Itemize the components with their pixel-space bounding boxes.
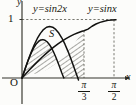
curve-label-sin2x: y=sin2x — [33, 4, 67, 15]
region-label-s: S — [49, 29, 54, 40]
y-axis-tick-label-1: 1 — [8, 13, 14, 24]
x-axis-label: x — [126, 72, 130, 82]
fraction-denominator: 2 — [108, 93, 120, 103]
y-axis-label: y — [17, 0, 21, 7]
fraction-numerator: π — [78, 81, 90, 91]
fraction-numerator: π — [108, 81, 120, 91]
math-figure-sine-area: y=sin2x y=sinx 1 O x y S π 3 π 2 — [0, 0, 136, 105]
x-axis-tick-label-pi-over-2: π 2 — [108, 81, 120, 102]
fraction-denominator: 3 — [78, 93, 90, 103]
x-axis-tick-label-pi-over-3: π 3 — [78, 81, 90, 102]
origin-label: O — [10, 77, 18, 88]
curve-label-sinx: y=sinx — [88, 4, 117, 15]
